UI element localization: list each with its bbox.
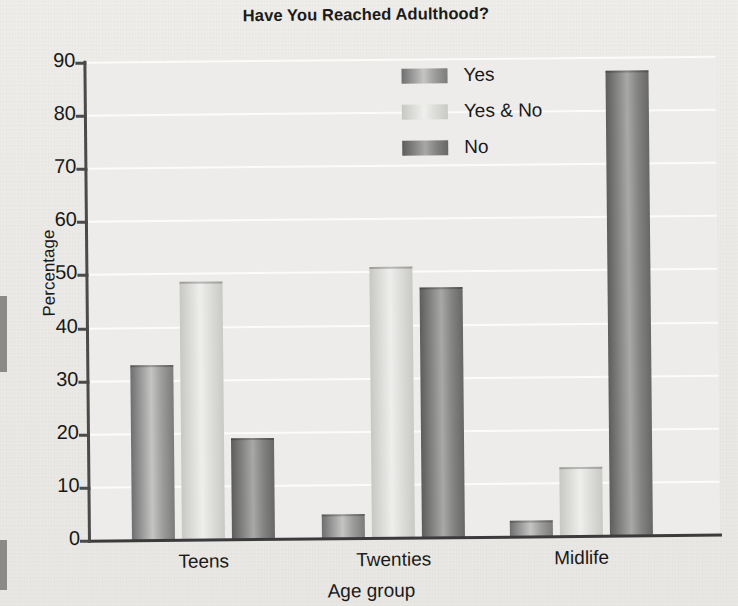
y-axis-tick — [77, 274, 88, 277]
y-axis-tick-label: 0 — [26, 527, 80, 551]
y-axis-tick-label: 90 — [21, 49, 75, 73]
x-axis-label: Age group — [2, 576, 738, 605]
y-axis-tick — [76, 168, 87, 171]
legend-swatch-yes-and-no — [402, 104, 448, 119]
legend-swatch-no — [402, 140, 448, 155]
y-axis-tick — [79, 487, 90, 490]
bar-twenties-yes — [322, 514, 365, 538]
y-axis-tick-label: 30 — [24, 367, 78, 391]
bar-midlife-no — [605, 71, 652, 536]
y-axis-tick-label: 10 — [25, 474, 79, 498]
y-axis-tick — [80, 540, 91, 543]
y-axis-tick — [78, 380, 89, 383]
bar-teens-yes-and-no — [180, 282, 225, 540]
x-axis-tick-label-midlife: Midlife — [492, 546, 672, 570]
legend-item-no: No — [402, 128, 543, 165]
y-axis-tick — [77, 221, 88, 224]
legend-item-yes-and-no: Yes & No — [402, 92, 543, 129]
legend-swatch-yes — [401, 68, 447, 83]
bar-twenties-yes-and-no — [369, 267, 415, 538]
x-axis-tick-label-twenties: Twenties — [304, 548, 484, 572]
legend-label-no: No — [464, 136, 489, 158]
y-axis-tick-label: 20 — [25, 421, 79, 445]
y-axis-tick-label: 60 — [23, 208, 77, 232]
y-axis-tick-label: 40 — [24, 314, 78, 338]
y-axis-tick-label: 50 — [23, 261, 77, 285]
bar-twenties-no — [420, 287, 465, 537]
y-axis-tick — [76, 115, 87, 118]
x-axis-tick-label-teens: Teens — [114, 550, 294, 574]
y-axis-tick — [79, 433, 90, 436]
bar-midlife-yes-and-no — [559, 467, 603, 536]
bar-teens-yes — [130, 365, 175, 541]
legend-item-yes: Yes — [401, 56, 542, 93]
chart-legend: Yes Yes & No No — [401, 56, 543, 165]
y-axis-tick-label: 80 — [22, 102, 76, 126]
bar-teens-no — [231, 438, 275, 539]
y-axis-tick-labels: 0102030405060708090 — [9, 3, 81, 606]
legend-label-yes: Yes — [463, 64, 494, 86]
y-axis-tick-label: 70 — [22, 155, 76, 179]
chart-title: Have You Reached Adulthood? — [0, 1, 735, 27]
bar-midlife-yes — [510, 520, 553, 536]
chart-figure: Have You Reached Adulthood? Percentage 0… — [0, 0, 738, 606]
y-axis-tick — [78, 327, 89, 330]
legend-label-yes-and-no: Yes & No — [464, 99, 543, 122]
y-axis-tick — [75, 62, 86, 65]
